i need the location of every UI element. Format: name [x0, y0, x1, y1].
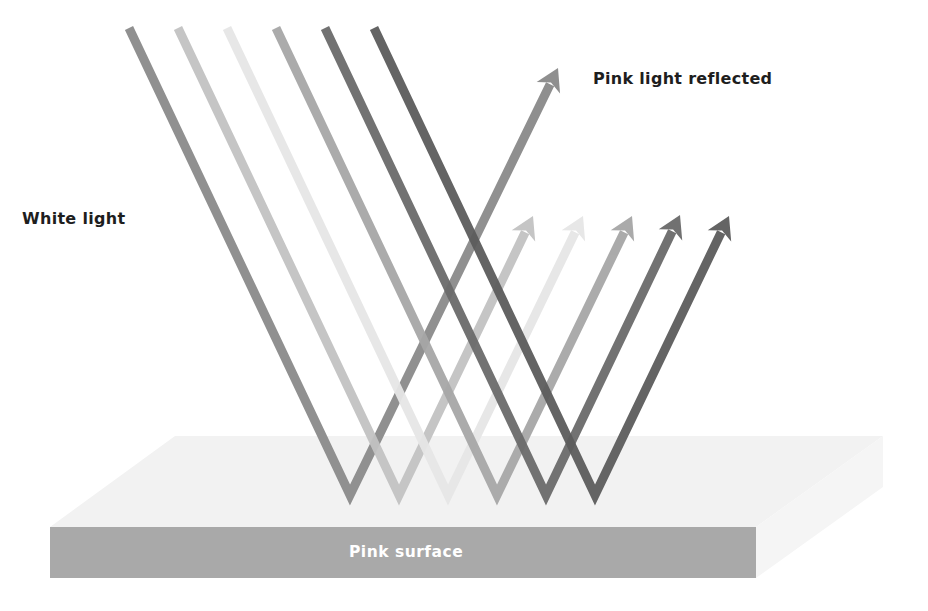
light-rays	[129, 28, 731, 495]
pink-surface-label: Pink surface	[349, 543, 463, 561]
light-ray	[374, 28, 731, 495]
light-ray	[129, 28, 560, 495]
ray-path	[178, 28, 525, 495]
white-light-label: White light	[22, 209, 125, 228]
ray-path	[227, 28, 575, 495]
ray-path	[276, 28, 624, 495]
light-reflection-diagram	[0, 0, 928, 611]
ray-path	[325, 28, 672, 495]
pink-light-reflected-label: Pink light reflected	[593, 69, 772, 88]
